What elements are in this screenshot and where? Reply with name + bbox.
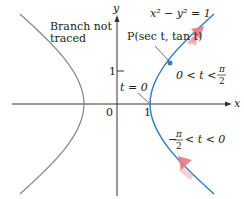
- t-zero-label: t = 0: [120, 81, 148, 94]
- lower-interval-frac-den: 2: [176, 141, 182, 151]
- equation-label: x² − y² = 1: [150, 7, 211, 20]
- x-axis: [12, 102, 232, 107]
- hyperbola-diagram: x² − y² = 1 P(sec t, tan t) Branch not t…: [0, 0, 244, 199]
- point-p-label: P(sec t, tan t): [127, 30, 202, 43]
- left-branch-label-line2: traced: [50, 32, 86, 45]
- y-tick-label: 1: [109, 65, 116, 78]
- t-zero-leader: [138, 93, 149, 103]
- point-p-marker: [168, 61, 173, 66]
- upper-interval-frac-num: π: [218, 64, 226, 74]
- x-axis-label: x: [234, 97, 241, 110]
- lower-interval-suffix: < t < 0: [185, 133, 225, 146]
- y-axis-label: y: [112, 2, 120, 15]
- point-p-leader: [155, 46, 169, 61]
- x-tick-label: 1: [144, 106, 151, 119]
- y-axis: [115, 15, 120, 196]
- origin-label: 0: [106, 106, 113, 119]
- upper-interval-frac-den: 2: [219, 76, 225, 86]
- upper-interval-label: 0 < t <: [176, 69, 216, 82]
- lower-interval-frac-num: π: [175, 129, 183, 139]
